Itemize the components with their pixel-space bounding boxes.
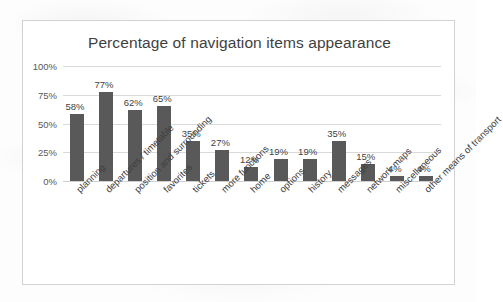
y-axis-tick-label: 100% (33, 61, 57, 72)
y-axis-tick-label: 25% (38, 147, 57, 158)
bar-value-label: 65% (145, 93, 179, 104)
bar-value-label: 35% (320, 128, 354, 139)
bar[interactable] (70, 114, 84, 181)
bar-slot: 19% (267, 66, 296, 181)
y-axis-tick-label: 75% (38, 89, 57, 100)
y-axis-tick-label: 50% (38, 118, 57, 129)
bar-value-label: 77% (87, 79, 121, 90)
bar-value-label: 58% (58, 101, 92, 112)
bar-slot: 35% (325, 66, 354, 181)
bar[interactable] (215, 150, 229, 181)
chart-title: Percentage of navigation items appearanc… (23, 34, 456, 52)
y-axis-tick-label: 0% (43, 176, 57, 187)
bar-value-label: 27% (203, 137, 237, 148)
bar-value-label: 19% (291, 146, 325, 157)
plot-area: 0%25%50%75%100% 58%77%62%65%35%27%12%19%… (63, 66, 441, 181)
bar-slot: 19% (296, 66, 325, 181)
chart-container: Percentage of navigation items appearanc… (22, 20, 455, 285)
bar[interactable] (332, 141, 346, 181)
